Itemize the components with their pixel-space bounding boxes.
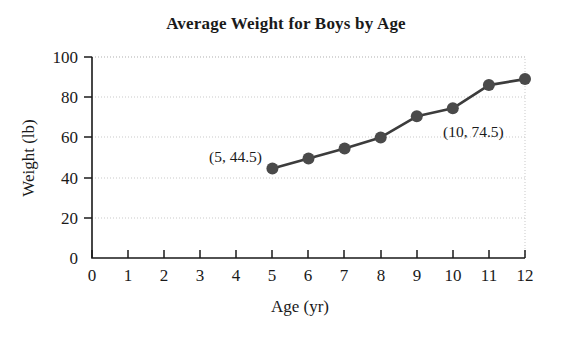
chart-plot-area: 100 80 60 40 20 0 0 1 2 3 4 5 6 7 8 9 10… <box>0 0 572 337</box>
x-tick-label-7: 7 <box>340 266 349 285</box>
x-tick-label-3: 3 <box>196 266 205 285</box>
data-point <box>375 131 387 143</box>
x-tick-label-0: 0 <box>88 266 97 285</box>
y-tick-label-60: 60 <box>61 128 78 147</box>
x-tick-label-9: 9 <box>413 266 422 285</box>
data-point <box>483 79 495 91</box>
data-point <box>519 73 531 85</box>
y-tick-label-20: 20 <box>61 209 78 228</box>
x-tick-label-4: 4 <box>232 266 241 285</box>
x-tick-label-6: 6 <box>304 266 313 285</box>
x-tick-label-2: 2 <box>160 266 169 285</box>
y-tick-label-100: 100 <box>53 48 79 67</box>
x-tick-label-10: 10 <box>445 266 462 285</box>
annotation-left: (5, 44.5) <box>209 148 262 166</box>
x-axis-title: Age (yr) <box>271 297 329 316</box>
x-tick-label-8: 8 <box>377 266 386 285</box>
y-axis-title: Weight (lb) <box>19 119 38 196</box>
y-tick-label-0: 0 <box>70 249 79 268</box>
y-tick-label-40: 40 <box>61 169 78 188</box>
x-tick-label-12: 12 <box>517 266 534 285</box>
y-tick-label-80: 80 <box>61 88 78 107</box>
data-point <box>411 110 423 122</box>
data-point <box>303 153 315 165</box>
chart-figure: Average Weight for Boys by Age 100 80 60… <box>0 0 572 337</box>
data-point <box>339 143 351 155</box>
data-point <box>447 102 459 114</box>
x-tick-label-1: 1 <box>124 266 133 285</box>
annotation-right: (10, 74.5) <box>443 123 504 141</box>
x-tick-label-11: 11 <box>481 266 497 285</box>
data-point <box>266 163 278 175</box>
x-tick-label-5: 5 <box>268 266 277 285</box>
